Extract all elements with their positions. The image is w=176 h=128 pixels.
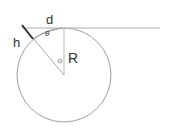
label-R: R — [68, 50, 78, 66]
height-segment — [22, 25, 33, 39]
center-angle-dot — [59, 60, 60, 61]
horizon-diagram: d h R θ — [0, 0, 176, 128]
label-d: d — [46, 12, 53, 27]
label-theta: θ — [45, 29, 50, 38]
label-h: h — [13, 35, 20, 50]
